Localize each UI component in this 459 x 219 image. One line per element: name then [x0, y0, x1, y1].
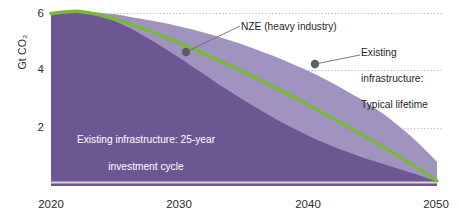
typical-lifetime-line-1: Existing	[361, 46, 428, 59]
investment-cycle-line-1: Existing infrastructure: 25-year	[60, 133, 232, 147]
nze-marker-dot	[182, 48, 190, 56]
investment-cycle-line-2: investment cycle	[60, 160, 232, 174]
typical-lifetime-line-2: infrastructure:	[361, 72, 428, 85]
typical-lifetime-leader-line	[315, 55, 360, 64]
nze-callout-label: NZE (heavy industry)	[241, 20, 337, 33]
typical-lifetime-line-3: Typical lifetime	[361, 98, 428, 111]
typical-lifetime-callout-label: Existing infrastructure: Typical lifetim…	[361, 33, 428, 124]
investment-cycle-label: Existing infrastructure: 25-year investm…	[60, 119, 232, 187]
typical-lifetime-marker-dot	[311, 60, 319, 68]
chart-figure: Gt CO₂ 6 4 2 2020 2030 2040 2050 NZ	[0, 0, 459, 219]
